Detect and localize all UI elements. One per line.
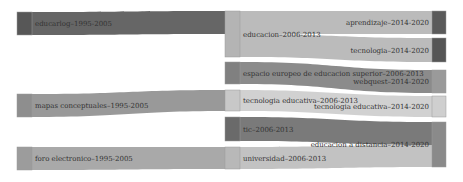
sankey-diagram: educarlog–1995-2005mapas conceptuales–19… xyxy=(0,0,463,182)
node-tecnologia[interactable] xyxy=(432,38,446,62)
node-mapas[interactable] xyxy=(17,94,32,117)
node-label-tecedu2: tecnologia educativa–2014-2020 xyxy=(314,103,429,111)
node-label-aprendizaje: aprendizaje–2014-2020 xyxy=(346,19,429,27)
node-educarlog[interactable] xyxy=(17,12,32,35)
node-label-tic: tic–2006-2013 xyxy=(243,126,293,134)
node-label-espacio: espacio europeo de educacion superior–20… xyxy=(243,70,424,78)
node-tecedu2[interactable] xyxy=(432,96,446,117)
node-label-webquest: webquest–2014-2020 xyxy=(353,78,429,86)
node-label-educacion: educacion–2006-2013 xyxy=(243,31,321,39)
node-webquest[interactable] xyxy=(432,70,446,93)
node-espacio[interactable] xyxy=(225,62,240,84)
node-label-distancia: educacion a distancia–2014-2020 xyxy=(311,141,429,149)
node-tecedu1[interactable] xyxy=(225,90,240,111)
node-label-universidad: universidad–2006-2013 xyxy=(243,155,326,163)
node-label-educarlog: educarlog–1995-2005 xyxy=(35,20,112,28)
node-label-mapas: mapas conceptuales–1995-2005 xyxy=(35,102,148,110)
node-tic[interactable] xyxy=(225,117,240,141)
node-label-tecnologia: tecnologia–2014-2020 xyxy=(351,47,429,55)
node-label-foro: foro electronico–1995-2005 xyxy=(35,155,133,163)
node-educacion[interactable] xyxy=(225,11,240,57)
node-distancia[interactable] xyxy=(432,122,446,167)
node-universidad[interactable] xyxy=(225,147,240,169)
node-foro[interactable] xyxy=(17,147,32,170)
node-aprendizaje[interactable] xyxy=(432,11,446,34)
